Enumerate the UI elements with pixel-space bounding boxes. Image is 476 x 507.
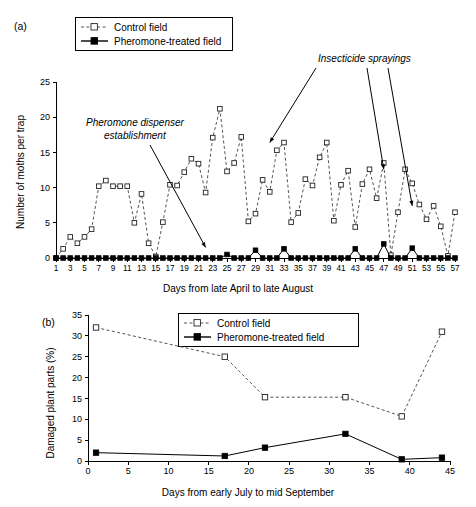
x-tick-label: 31: [265, 264, 275, 273]
legend-treated-label-b: Pheromone-treated field: [217, 332, 324, 343]
x-tick-label: 27: [237, 264, 247, 273]
data-point-control: [424, 217, 429, 222]
y-tick-label: 10: [72, 414, 82, 424]
data-point-control: [175, 183, 180, 188]
x-tick-label: 11: [123, 264, 132, 273]
data-point-treated: [381, 242, 386, 247]
data-point-control: [324, 140, 329, 145]
y-tick-label: 35: [72, 310, 82, 320]
data-point-control: [182, 170, 187, 175]
data-point-control: [139, 192, 144, 197]
data-point-control: [431, 204, 436, 209]
panel-a-yaxis-title: Number of moths per trap: [15, 115, 26, 229]
x-tick-label: 57: [450, 264, 460, 273]
data-point-control: [267, 190, 272, 195]
data-point-treated: [161, 256, 166, 261]
figure-container: (a) Control field Pheromone-treated fiel…: [0, 0, 476, 507]
data-point-treated: [93, 450, 98, 455]
panel-a: (a) Control field Pheromone-treated fiel…: [0, 0, 476, 300]
annotation-insecticide-label: Insecticide sprayings: [318, 53, 411, 64]
legend-control-marker-b: [194, 320, 200, 326]
x-tick-label: 30: [324, 466, 334, 476]
y-tick-label: 0: [77, 456, 82, 466]
data-point-control: [303, 177, 308, 182]
data-point-treated: [132, 256, 137, 261]
data-point-treated: [343, 431, 348, 436]
data-point-control: [275, 148, 280, 153]
data-point-treated: [317, 256, 322, 261]
data-point-control: [82, 235, 87, 240]
legend-control-marker: [91, 24, 97, 30]
x-tick-label: 13: [137, 264, 147, 273]
data-point-treated: [275, 256, 280, 261]
data-point-treated: [196, 256, 201, 261]
x-tick-label: 21: [194, 264, 204, 273]
arrow-insecticide-1: [270, 68, 316, 143]
x-tick-label: 29: [251, 264, 261, 273]
data-point-treated: [104, 256, 109, 261]
data-point-control: [453, 210, 458, 215]
arrow-pheromone-dispenser: [150, 145, 206, 247]
x-tick-label: 35: [365, 466, 375, 476]
x-tick-label: 15: [204, 466, 214, 476]
x-tick-label: 41: [336, 264, 346, 273]
data-point-treated: [239, 256, 244, 261]
data-point-control: [118, 184, 123, 189]
data-point-control: [282, 140, 287, 145]
data-point-treated: [332, 256, 337, 261]
x-tick-label: 47: [379, 264, 389, 273]
x-tick-label: 25: [222, 264, 232, 273]
data-point-treated: [75, 256, 80, 261]
panel-a-xaxis-title: Days from late April to late August: [163, 283, 313, 294]
data-point-control: [196, 161, 201, 166]
data-point-treated: [446, 256, 451, 261]
x-tick-label: 37: [308, 264, 318, 273]
y-tick-label: 5: [77, 435, 82, 445]
data-point-treated: [96, 256, 101, 261]
data-point-control: [111, 184, 116, 189]
data-point-treated: [410, 246, 415, 251]
data-point-control: [203, 190, 208, 195]
data-point-treated: [374, 256, 379, 261]
data-point-treated: [89, 256, 94, 261]
data-point-treated: [399, 457, 404, 462]
panel-a-axes: 0510152025135791113151719212325272931333…: [40, 77, 460, 273]
data-point-treated: [153, 256, 158, 261]
panel-b: (b) Control field Pheromone-treated fiel…: [0, 300, 476, 507]
data-point-treated: [182, 256, 187, 261]
data-point-treated: [225, 252, 230, 257]
data-point-control: [210, 135, 215, 140]
x-tick-label: 5: [126, 466, 131, 476]
data-point-control: [367, 167, 372, 172]
y-tick-label: 25: [40, 77, 50, 87]
y-tick-label: 10: [40, 183, 50, 193]
arrow-pheromone-dispenser-head: [201, 242, 205, 247]
data-point-control: [218, 106, 223, 111]
data-point-control: [396, 210, 401, 215]
data-point-treated: [54, 256, 59, 261]
data-point-control: [125, 184, 130, 189]
y-tick-label: 15: [72, 394, 82, 404]
data-point-control: [374, 196, 379, 201]
x-tick-label: 3: [68, 264, 73, 273]
panel-b-yaxis-title: Damaged plant parts (%): [45, 347, 56, 458]
x-tick-label: 1: [54, 264, 59, 273]
y-tick-label: 30: [72, 331, 82, 341]
data-point-treated: [232, 256, 237, 261]
data-point-treated: [438, 256, 443, 261]
data-point-control: [246, 219, 251, 224]
legend-treated-marker-b: [194, 334, 201, 341]
data-point-treated: [189, 256, 194, 261]
panel-b-svg: (b) Control field Pheromone-treated fiel…: [0, 300, 476, 507]
x-tick-label: 23: [208, 264, 218, 273]
data-point-treated: [253, 248, 258, 253]
data-point-treated: [260, 256, 265, 261]
panel-b-label: (b): [42, 316, 55, 328]
data-point-treated: [267, 256, 272, 261]
annotation-pheromone-line2: establishment: [104, 130, 167, 141]
y-tick-label: 20: [40, 112, 50, 122]
x-tick-label: 33: [279, 264, 289, 273]
data-point-control: [332, 218, 337, 223]
data-point-control: [96, 184, 101, 189]
data-point-treated: [303, 256, 308, 261]
